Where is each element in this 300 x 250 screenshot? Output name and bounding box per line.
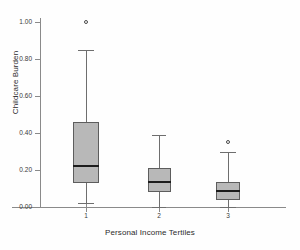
x-tick-mark [86, 203, 87, 212]
lower-whisker-line [159, 192, 160, 207]
x-tick-label: 2 [149, 213, 169, 220]
y-tick-label: 1.00 [0, 19, 32, 26]
boxplot-figure: Childcare Burden Personal Income Tertile… [0, 0, 300, 250]
lower-whisker-line [86, 183, 87, 203]
y-tick-mark [35, 133, 40, 134]
lower-whisker-line [228, 200, 229, 207]
x-tick-label: 1 [76, 213, 96, 220]
y-axis-title: Childcare Burden [11, 23, 20, 143]
upper-whisker-cap [220, 152, 235, 153]
y-tick-label: 0.60 [0, 93, 32, 100]
median-line [216, 190, 240, 192]
upper-whisker-line [86, 50, 87, 122]
y-tick-label: 0.40 [0, 130, 32, 137]
median-line [148, 181, 171, 183]
y-tick-mark [35, 170, 40, 171]
lower-whisker-cap [220, 207, 235, 208]
y-tick-mark [35, 96, 40, 97]
x-axis-title: Personal Income Tertiles [0, 228, 300, 237]
y-axis-line [40, 18, 41, 208]
y-tick-label: 0.80 [0, 56, 32, 63]
x-axis-line [12, 207, 286, 208]
box-body [73, 122, 99, 183]
upper-whisker-line [228, 152, 229, 183]
outlier-point [84, 20, 88, 24]
x-tick-label: 3 [218, 213, 238, 220]
y-tick-mark [35, 59, 40, 60]
upper-whisker-cap [78, 50, 95, 51]
median-line [73, 165, 99, 167]
y-tick-mark [35, 22, 40, 23]
upper-whisker-line [159, 135, 160, 168]
y-tick-label: 0.20 [0, 167, 32, 174]
lower-whisker-cap [152, 207, 167, 208]
lower-whisker-cap [78, 203, 95, 204]
outlier-point [226, 140, 230, 144]
upper-whisker-cap [152, 135, 167, 136]
y-tick-label: 0.00 [0, 204, 32, 211]
y-tick-mark [35, 207, 40, 208]
